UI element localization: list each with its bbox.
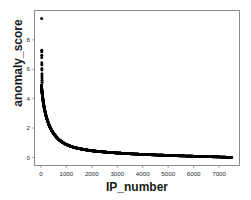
x-axis-label: IP_number bbox=[34, 180, 240, 194]
anomaly-score-scatter-figure: 01000200030004000500060007000 02468 anom… bbox=[0, 0, 251, 200]
outlier-point bbox=[41, 81, 44, 84]
y-tick-label: 2 bbox=[27, 124, 31, 131]
y-tick-label: 4 bbox=[27, 95, 31, 102]
y-tick-label: 0 bbox=[27, 154, 31, 161]
y-tick-label: 8 bbox=[27, 36, 31, 43]
x-tick-label: 7000 bbox=[212, 170, 226, 177]
x-tick-label: 4000 bbox=[136, 170, 150, 177]
outlier-point bbox=[40, 56, 43, 59]
outlier-point bbox=[40, 50, 43, 53]
y-axis-label: anomaly_score bbox=[11, 8, 27, 118]
x-tick-label: 3000 bbox=[110, 170, 124, 177]
outlier-point bbox=[40, 63, 43, 66]
plot-canvas: 01000200030004000500060007000 02468 bbox=[0, 0, 251, 200]
x-tick-label: 6000 bbox=[187, 170, 201, 177]
x-tick-label: 2000 bbox=[85, 170, 99, 177]
x-tick-label: 0 bbox=[39, 170, 43, 177]
x-tick-label: 1000 bbox=[59, 170, 73, 177]
outlier-point bbox=[40, 69, 43, 72]
y-tick-label: 6 bbox=[27, 65, 31, 72]
outlier-point bbox=[40, 17, 43, 20]
x-tick-label: 5000 bbox=[161, 170, 175, 177]
